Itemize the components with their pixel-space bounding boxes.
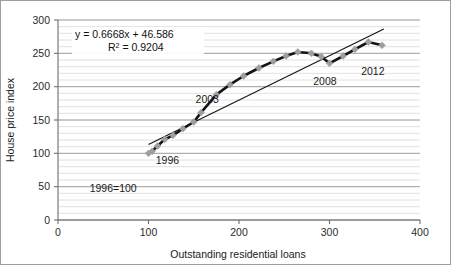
x-tick-label: 400 [411, 226, 429, 238]
equation-line1: y = 0.6668x + 46.586 [75, 28, 174, 40]
y-tick-label: 0 [44, 214, 50, 226]
annotation-2012: 2012 [361, 65, 385, 77]
chart-figure: 050100150200250300 0100200300400 1996200… [0, 0, 451, 265]
y-axis-title: House price index [4, 77, 16, 162]
r-squared-value: = 0.9204 [120, 41, 164, 53]
x-tick-label: 0 [55, 226, 61, 238]
x-tick-label: 300 [321, 226, 339, 238]
y-tick-label: 200 [32, 80, 50, 92]
annotation-2008: 2008 [313, 75, 337, 87]
y-tick-label: 50 [38, 180, 50, 192]
y-tick-label: 250 [32, 47, 50, 59]
y-tick-label: 150 [32, 114, 50, 126]
scatter-chart: 050100150200250300 0100200300400 1996200… [0, 0, 451, 265]
x-axis-title: Outstanding residential loans [170, 248, 305, 260]
x-tick-label: 100 [140, 226, 158, 238]
annotation-2003: 2003 [196, 93, 220, 105]
x-tick-label: 200 [230, 226, 248, 238]
annotation-1996: 1996 [156, 154, 180, 166]
equation-label: y = 0.6668x + 46.586 R2 = 0.9204 [72, 27, 204, 55]
y-tick-label: 300 [32, 14, 50, 26]
annotation-base-note: 1996=100 [90, 182, 137, 194]
y-tick-label: 100 [32, 147, 50, 159]
